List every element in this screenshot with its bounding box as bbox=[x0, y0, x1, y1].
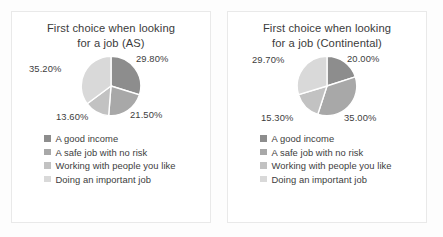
legend-swatch-icon-3 bbox=[44, 176, 51, 183]
legend-continental: A good income A safe job with no risk Wo… bbox=[236, 133, 418, 185]
chart-pair-container: First choice when looking for a job (AS)… bbox=[0, 0, 443, 237]
pie-label-as-0: 29.80% bbox=[136, 53, 168, 64]
legend-item-working-with-people-you-like[interactable]: Working with people you like bbox=[44, 160, 202, 171]
legend-swatch-icon-0 bbox=[44, 135, 51, 142]
legend-item-doing-an-important-job[interactable]: Doing an important job bbox=[260, 174, 418, 185]
chart-title-continental-line2: for a job (Continental) bbox=[236, 36, 418, 51]
legend-item-a-safe-job-with-no-risk[interactable]: A safe job with no risk bbox=[44, 147, 202, 158]
pie-slices-as bbox=[81, 56, 141, 116]
pie-label-continental-0: 20.00% bbox=[347, 53, 379, 64]
legend-item-a-good-income[interactable]: A good income bbox=[44, 133, 202, 144]
legend-swatch-icon-3 bbox=[260, 176, 267, 183]
legend-item-working-with-people-you-like[interactable]: Working with people you like bbox=[260, 160, 418, 171]
legend-item-doing-an-important-job[interactable]: Doing an important job bbox=[44, 174, 202, 185]
chart-title-as: First choice when looking for a job (AS) bbox=[20, 21, 202, 50]
pie-chart-continental bbox=[296, 55, 358, 117]
legend-label-0: A good income bbox=[56, 133, 119, 144]
pie-label-as-3: 35.20% bbox=[29, 63, 61, 74]
legend-label-0: A good income bbox=[272, 133, 335, 144]
chart-panel-as: First choice when looking for a job (AS)… bbox=[11, 11, 211, 223]
chart-title-as-line1: First choice when looking bbox=[20, 21, 202, 36]
pie-label-continental-2: 15.30% bbox=[261, 112, 293, 123]
legend-label-3: Doing an important job bbox=[56, 174, 151, 185]
legend-swatch-icon-2 bbox=[260, 162, 267, 169]
pie-svg-continental bbox=[296, 55, 358, 117]
chart-title-continental-line1: First choice when looking bbox=[236, 21, 418, 36]
legend-swatch-icon-1 bbox=[44, 149, 51, 156]
pie-label-as-2: 13.60% bbox=[56, 111, 88, 122]
pie-label-as-1: 21.50% bbox=[130, 109, 162, 120]
legend-label-3: Doing an important job bbox=[272, 174, 367, 185]
pie-svg-as bbox=[80, 55, 142, 117]
legend-label-2: Working with people you like bbox=[272, 160, 392, 171]
chart-panel-continental: First choice when looking for a job (Con… bbox=[227, 11, 427, 223]
legend-label-1: A safe job with no risk bbox=[272, 147, 364, 158]
pie-area-continental: 20.00% 35.00% 15.30% 29.70% bbox=[234, 53, 420, 129]
legend-label-1: A safe job with no risk bbox=[56, 147, 148, 158]
legend-swatch-icon-0 bbox=[260, 135, 267, 142]
pie-chart-as bbox=[80, 55, 142, 117]
legend-item-a-good-income[interactable]: A good income bbox=[260, 133, 418, 144]
pie-label-continental-1: 35.00% bbox=[344, 112, 376, 123]
pie-label-continental-3: 29.70% bbox=[252, 54, 284, 65]
legend-swatch-icon-2 bbox=[44, 162, 51, 169]
legend-as: A good income A safe job with no risk Wo… bbox=[20, 133, 202, 185]
legend-swatch-icon-1 bbox=[260, 149, 267, 156]
chart-title-continental: First choice when looking for a job (Con… bbox=[236, 21, 418, 50]
pie-slices-continental bbox=[297, 56, 357, 116]
legend-item-a-safe-job-with-no-risk[interactable]: A safe job with no risk bbox=[260, 147, 418, 158]
pie-area-as: 29.80% 21.50% 13.60% 35.20% bbox=[18, 53, 204, 129]
chart-title-as-line2: for a job (AS) bbox=[20, 36, 202, 51]
legend-label-2: Working with people you like bbox=[56, 160, 176, 171]
